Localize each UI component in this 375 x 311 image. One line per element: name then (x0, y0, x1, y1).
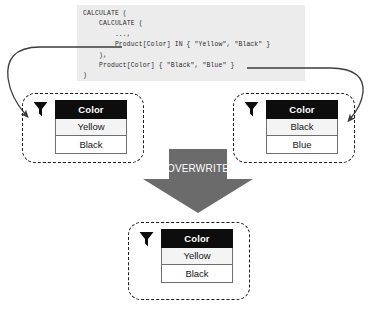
code-line: Product[Color] IN { "Yellow", "Black" } (83, 40, 305, 50)
table-cell: Blue (267, 136, 338, 154)
table-cell: Yellow (56, 118, 127, 136)
filter-funnel-icon (244, 101, 259, 117)
table-row: Blue (267, 136, 338, 154)
diagram-canvas: CALCULATE ( CALCULATE ( ..., Product[Col… (0, 0, 375, 311)
table-row: Yellow (56, 118, 127, 136)
table-header-row: Color (267, 101, 338, 119)
table-header-row: Color (56, 101, 127, 119)
outer-filter-table: Color Black Blue (266, 100, 338, 154)
inner-filter-table: Color Yellow Black (55, 100, 127, 154)
code-line: ) (83, 71, 305, 81)
code-line: ..., (83, 30, 305, 40)
column-header: Color (162, 230, 233, 248)
code-line: CALCULATE ( (83, 9, 305, 19)
result-filter-table: Color Yellow Black (161, 229, 233, 283)
table-row: Black (267, 118, 338, 136)
filter-funnel-icon (139, 231, 154, 247)
code-line: Product[Color] { "Black", "Blue" } (83, 61, 305, 71)
table-cell: Black (267, 118, 338, 136)
table-cell: Black (56, 136, 127, 154)
code-line: CALCULATE ( (83, 19, 305, 29)
code-line: ), (83, 51, 305, 61)
table-header-row: Color (162, 230, 233, 248)
table-row: Black (56, 136, 127, 154)
table-row: Yellow (162, 247, 233, 265)
filter-funnel-icon (33, 101, 48, 117)
table-row: Black (162, 265, 233, 283)
table-cell: Yellow (162, 247, 233, 265)
column-header: Color (267, 101, 338, 119)
column-header: Color (56, 101, 127, 119)
table-cell: Black (162, 265, 233, 283)
dax-code-block: CALCULATE ( CALCULATE ( ..., Product[Col… (77, 5, 305, 81)
